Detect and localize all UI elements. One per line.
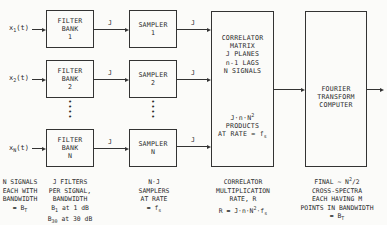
output-arrow-line: [367, 89, 381, 90]
connector-sampler2-correlator: [177, 79, 208, 80]
ellipsis-vertical-filter: ••••: [68, 100, 71, 120]
connector-filter2-sampler2: [94, 79, 126, 80]
products-rate: AT RATE = fs: [218, 130, 267, 140]
caption-filters: J FILTERS PER SIGNAL, BANDWIDTH B1 at 1 …: [44, 178, 96, 225]
connector-filtern-samplern: [94, 148, 126, 149]
products-formula: J·n·N2: [230, 111, 254, 122]
filter-bank-2: FILTERBANK2: [46, 60, 94, 98]
caption-signals: N SIGNALS EACH WITH BANDWIDTH = BT: [0, 178, 40, 214]
edge-label-j: J: [191, 19, 195, 27]
connector-filter1-sampler1: [94, 29, 126, 30]
edge-label-j: J: [108, 69, 112, 77]
connector-samplern-correlator: [177, 146, 208, 147]
ellipsis-vertical-sampler: ••••: [151, 100, 154, 120]
filter-bank-1: FILTERBANK1: [46, 10, 94, 48]
caption-correlator: CORRELATOR MULTIPLICATION RATE, R R = J·…: [206, 178, 280, 217]
arrowhead-icon: [380, 88, 384, 92]
edge-label-j: J: [108, 138, 112, 146]
correlator-matrix-block: CORRELATOR MATRIX J PLANES n-1 LAGS N SI…: [211, 11, 274, 167]
connector-sampler1-correlator: [177, 29, 208, 30]
input-label-xn: xN(t): [9, 144, 29, 153]
input-label-x2: x2(t): [9, 74, 29, 83]
sampler-2: SAMPLER2: [129, 60, 177, 98]
sampler-1: SAMPLER1: [129, 10, 177, 48]
filter-bank-n: FILTERBANKN: [46, 129, 94, 167]
connector-correlator-fft: [274, 89, 302, 90]
fourier-transform-computer-block: FOURIER TRANSFORM COMPUTER: [305, 11, 367, 167]
caption-final: FINAL ~ N2/2 CROSS-SPECTRA EACH HAVING M…: [295, 175, 379, 222]
edge-label-j: J: [191, 136, 195, 144]
caption-samplers: N·J SAMPLERS AT RATE = fs: [133, 178, 175, 214]
sampler-n: SAMPLERN: [129, 129, 177, 167]
input-label-x1: x1(t): [9, 24, 29, 33]
edge-label-j: J: [108, 19, 112, 27]
edge-label-j: J: [191, 69, 195, 77]
